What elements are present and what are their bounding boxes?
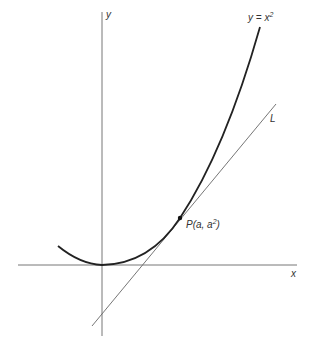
line-label: L bbox=[270, 113, 276, 124]
diagram-canvas bbox=[0, 0, 313, 356]
curve-label-exponent: 2 bbox=[269, 11, 273, 18]
point-label: P(a, a2) bbox=[186, 218, 220, 230]
point-P bbox=[178, 216, 182, 220]
y-axis-label: y bbox=[106, 9, 111, 20]
point-label-close: ) bbox=[217, 219, 220, 230]
curve-label: y = x2 bbox=[248, 11, 273, 23]
point-label-text: P(a, a bbox=[186, 219, 213, 230]
parabola-curve bbox=[58, 27, 260, 265]
tangent-line-L bbox=[92, 104, 276, 326]
x-axis-label: x bbox=[291, 268, 296, 279]
curve-label-text: y = x bbox=[248, 12, 269, 23]
